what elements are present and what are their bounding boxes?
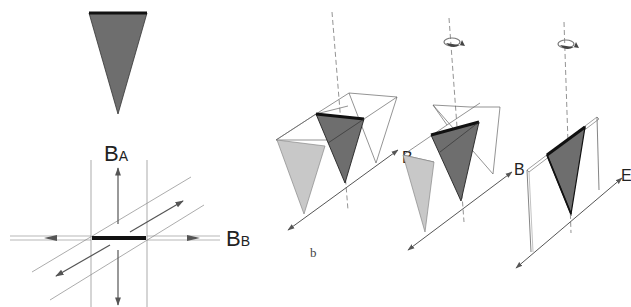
field-b-label: BB — [226, 226, 250, 251]
stage-2-field-label: B — [514, 161, 525, 178]
panel-a-field-diagram — [10, 160, 220, 307]
rotation-arrow-icon — [444, 38, 465, 47]
panel-b-stage-3 — [516, 22, 622, 268]
diagram-canvas: BA BB b B — [0, 0, 631, 307]
diagonal-arrow-down — [56, 245, 110, 276]
rotation-arrow-icon — [558, 40, 579, 49]
panel-b-stage-2 — [403, 18, 512, 250]
diagonal-arrow-up — [130, 201, 183, 232]
field-a-label: BA — [104, 141, 129, 166]
stage-3-field-label: E — [621, 167, 631, 184]
panel-b-caption: b — [310, 245, 317, 260]
panel-a-triangle — [89, 13, 147, 114]
panel-b-stage-1 — [276, 12, 398, 230]
